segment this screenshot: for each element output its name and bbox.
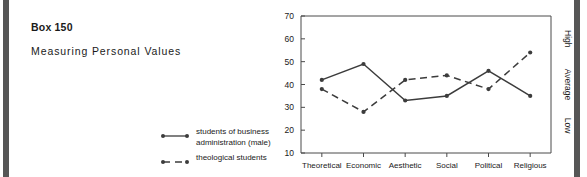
y-tick-label: 30 [285,102,295,112]
y-tick-label: 50 [285,57,295,67]
data-point [528,50,532,54]
y-axis-labels: 10203040506070 [285,11,295,158]
x-axis-ticks [322,153,530,157]
right-axis-label: High [563,30,573,48]
x-tick-label: Aesthetic [389,161,422,170]
series-line-theological [322,53,530,112]
data-point [486,87,490,91]
data-point [528,94,532,98]
data-point [361,62,365,66]
data-point [403,78,407,82]
plot-frame [301,16,551,153]
personal-values-line-chart: 10203040506070 TheoreticalEconomicAesthe… [0,0,587,177]
x-tick-label: Theoretical [302,161,342,170]
right-axis-label: Average [563,69,573,101]
y-tick-label: 60 [285,34,295,44]
y-tick-label: 40 [285,80,295,90]
data-point [486,69,490,73]
x-tick-label: Religious [514,161,547,170]
y-tick-label: 20 [285,125,295,135]
data-series-layer [320,50,533,114]
series-line-business [322,64,530,101]
x-tick-label: Social [436,161,458,170]
x-axis-labels: TheoreticalEconomicAestheticSocialPoliti… [302,161,547,170]
data-point [320,78,324,82]
data-point [320,87,324,91]
page-root: Box 150 Measuring Personal Values studen… [0,0,587,177]
y-axis-ticks [301,16,305,153]
right-axis-label: Low [563,118,573,134]
data-point [361,110,365,114]
data-point [445,94,449,98]
data-point [403,98,407,102]
data-point [445,73,449,77]
y-tick-label: 70 [285,11,295,21]
y-tick-label: 10 [285,148,295,158]
x-tick-label: Political [475,161,503,170]
right-axis-labels: HighAverageLow [563,30,573,134]
x-tick-label: Economic [346,161,381,170]
